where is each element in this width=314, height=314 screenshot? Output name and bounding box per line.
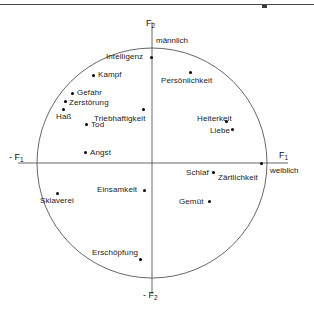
data-point-dot <box>231 128 234 131</box>
axis-label-f2-negative: - F2 <box>143 290 158 301</box>
data-point-dot <box>64 100 67 103</box>
data-point-label-erschoepfung: Erschöpfung <box>92 248 138 257</box>
pole-label-weiblich: weiblich <box>270 166 298 175</box>
data-point-dot <box>84 151 87 154</box>
plot-svg <box>0 0 314 314</box>
data-point-dot <box>189 71 192 74</box>
scatter-plot <box>0 0 314 314</box>
data-point-dot <box>71 92 74 95</box>
data-point-label-einsamkeit: Einsamkeit <box>97 185 137 194</box>
data-point-label-sklaverei: Sklaverei <box>40 196 74 205</box>
pole-label-maennlich: männlich <box>156 36 188 45</box>
data-point-label-zaertlichkeit: Zärtlichkeit <box>218 173 258 182</box>
data-point-label-gemuet: Gemüt <box>179 197 204 206</box>
data-point-dot <box>56 192 59 195</box>
data-point-dot <box>92 74 95 77</box>
axis-label-f1-positive: F1 <box>279 150 288 161</box>
data-point-dot <box>212 171 215 174</box>
data-point-label-angst: Angst <box>90 148 111 157</box>
data-point-label-schlaf: Schlaf <box>186 168 209 177</box>
data-point-dot <box>139 258 142 261</box>
axis-label-f2-positive: F2 <box>146 18 155 29</box>
data-point-label-heiterkeit: Heiterkeit <box>197 114 232 123</box>
data-point-label-tod: Tod <box>91 120 104 129</box>
data-point-dot <box>260 162 263 165</box>
data-point-label-zerstoerung: Zerstörung <box>69 98 109 107</box>
data-point-label-liebe: Liebe <box>210 126 230 135</box>
data-point-dot <box>62 108 65 111</box>
data-point-label-hass: Haß <box>56 112 71 121</box>
data-point-dot <box>208 200 211 203</box>
data-point-dot <box>142 108 145 111</box>
data-point-label-kampf: Kampf <box>98 70 122 79</box>
data-point-dot <box>143 189 146 192</box>
data-point-label-intelligenz: Intelligenz <box>106 52 143 61</box>
figure-canvas: F2 - F2 F1 - F1 männlich weiblich Intell… <box>0 0 314 314</box>
data-point-label-gefahr: Gefahr <box>77 88 102 97</box>
axis-label-f1-negative: - F1 <box>9 152 24 163</box>
data-point-label-persoenlichkeit: Persönlichkeit <box>161 76 212 85</box>
data-point-dot <box>150 56 153 59</box>
data-point-dot <box>85 123 88 126</box>
